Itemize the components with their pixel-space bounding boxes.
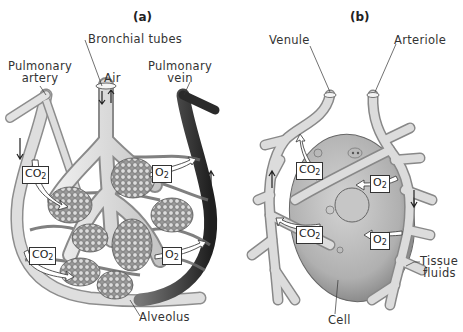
flow-down-arrow-icon bbox=[17, 138, 23, 159]
o2-box: O2 bbox=[162, 247, 182, 265]
panel-b-tissue-capillaries bbox=[252, 44, 432, 314]
label-alveolus: Alveolus bbox=[139, 311, 190, 323]
panel-b-label: (b) bbox=[350, 10, 370, 24]
label-arteriole: Arteriole bbox=[394, 34, 446, 46]
co2-box: CO2 bbox=[296, 226, 323, 244]
o2-box: O2 bbox=[370, 232, 390, 250]
panel-a-label: (a) bbox=[133, 10, 152, 24]
co2-box: CO2 bbox=[296, 162, 323, 180]
label-air: Air bbox=[104, 72, 121, 84]
label-cell: Cell bbox=[328, 314, 351, 326]
o2-box: O2 bbox=[152, 165, 172, 183]
label-venule: Venule bbox=[269, 34, 310, 46]
cell-nucleus bbox=[335, 188, 369, 222]
gas-exchange-diagram bbox=[0, 0, 463, 332]
label-bronchial-tubes: Bronchial tubes bbox=[88, 33, 182, 45]
label-pulmonary-vein: Pulmonary vein bbox=[148, 60, 212, 84]
label-tissue-fluids: Tissue fluids bbox=[420, 255, 458, 279]
co2-box: CO2 bbox=[29, 247, 56, 265]
o2-box: O2 bbox=[370, 175, 390, 193]
co2-box: CO2 bbox=[22, 166, 49, 184]
label-pulmonary-artery: Pulmonary artery bbox=[8, 60, 72, 84]
